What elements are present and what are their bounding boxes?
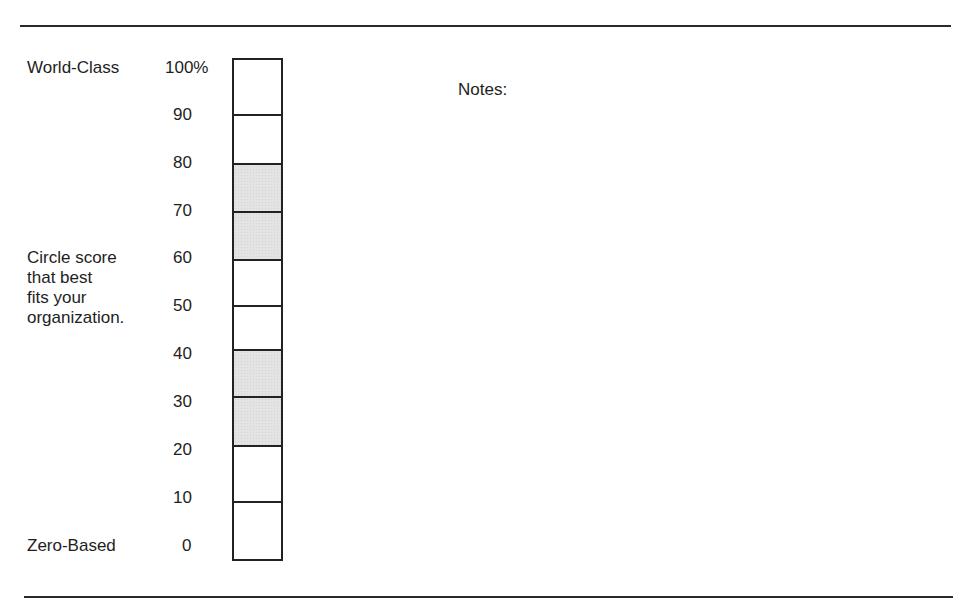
divider-70 xyxy=(234,211,281,213)
tick-100: 100% xyxy=(165,58,215,78)
tick-40: 40 xyxy=(173,344,223,364)
top-rule xyxy=(20,25,951,27)
cell-10-0[interactable] xyxy=(234,503,281,559)
cell-90-80[interactable] xyxy=(234,116,281,164)
instruction-line-4: organization. xyxy=(27,308,157,328)
instruction-line-1: Circle score xyxy=(27,248,157,268)
cell-80-70[interactable] xyxy=(234,165,281,212)
instruction-text: Circle score that best fits your organiz… xyxy=(27,248,157,328)
bottom-rule xyxy=(24,596,953,598)
zero-based-label: Zero-Based xyxy=(27,536,116,556)
cell-50-40[interactable] xyxy=(234,307,281,350)
tick-90: 90 xyxy=(173,105,223,125)
tick-80: 80 xyxy=(173,153,223,173)
instruction-line-2: that best xyxy=(27,268,157,288)
tick-30: 30 xyxy=(173,392,223,412)
divider-90 xyxy=(234,114,281,116)
world-class-label: World-Class xyxy=(27,58,119,78)
divider-20 xyxy=(234,445,281,447)
divider-40 xyxy=(234,349,281,351)
cell-40-30[interactable] xyxy=(234,351,281,397)
divider-10 xyxy=(234,501,281,503)
divider-60 xyxy=(234,259,281,261)
cell-100-90[interactable] xyxy=(234,60,281,115)
tick-0: 0 xyxy=(182,536,232,556)
cell-70-60[interactable] xyxy=(234,213,281,260)
cell-30-20[interactable] xyxy=(234,398,281,446)
divider-30 xyxy=(234,396,281,398)
score-scale xyxy=(232,58,283,561)
divider-80 xyxy=(234,163,281,165)
instruction-line-3: fits your xyxy=(27,288,157,308)
divider-50 xyxy=(234,305,281,307)
tick-10: 10 xyxy=(173,488,223,508)
tick-70: 70 xyxy=(173,201,223,221)
cell-60-50[interactable] xyxy=(234,261,281,306)
tick-20: 20 xyxy=(173,440,223,460)
tick-50: 50 xyxy=(173,296,223,316)
notes-label: Notes: xyxy=(458,80,507,100)
cell-20-10[interactable] xyxy=(234,447,281,502)
tick-60: 60 xyxy=(173,248,223,268)
